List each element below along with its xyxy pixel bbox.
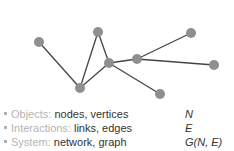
graph-edge	[109, 63, 160, 94]
bullet-icon	[4, 140, 7, 143]
graph-node	[104, 58, 114, 68]
legend-symbol: N	[185, 107, 193, 121]
graph-node	[132, 54, 142, 64]
graph-edge	[137, 33, 191, 59]
bullet-icon	[4, 126, 7, 129]
legend-symbol: G(N, E)	[185, 135, 222, 149]
graph-node	[34, 37, 44, 47]
graph-edge	[39, 42, 80, 88]
legend-label: System: network, graph	[11, 135, 127, 149]
legend-row-objects: Objects: nodes, vertices N	[0, 107, 234, 121]
graph-node	[93, 27, 103, 37]
legend-row-system: System: network, graph G(N, E)	[0, 135, 234, 149]
bullet-icon	[4, 112, 7, 115]
legend-symbol: E	[185, 121, 192, 135]
legend-label: Objects: nodes, vertices	[11, 107, 128, 121]
graph-node	[209, 60, 219, 70]
legend-label: Interactions: links, edges	[11, 121, 132, 135]
graph-edge	[137, 59, 214, 65]
legend-row-interactions: Interactions: links, edges E	[0, 121, 234, 135]
network-graph	[0, 0, 234, 105]
graph-node	[155, 89, 165, 99]
graph-node	[186, 28, 196, 38]
graph-node	[75, 83, 85, 93]
